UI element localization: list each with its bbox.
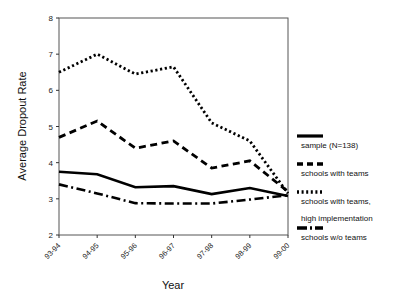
y-tick-label: 7 [49,50,54,59]
legend-label: schools with teams, [301,197,371,206]
legend-label: high implementation [301,214,373,223]
y-tick-label: 3 [49,195,54,204]
legend-label: schools with teams [301,169,369,178]
x-tick-label: 96-97 [157,241,177,261]
x-tick-label: 99-00 [271,241,291,261]
series-line [59,121,288,192]
x-tick-label: 95-96 [119,241,139,261]
chart-legend: sample (N=138)schools with teamsschools … [297,136,373,242]
legend-label: schools w/o teams [301,233,367,242]
y-tick-label: 2 [49,231,54,240]
x-tick-label: 94-95 [81,241,101,261]
y-tick-label: 8 [49,14,54,23]
legend-label: sample (N=138) [301,141,358,150]
x-tick-label: 93-94 [42,241,62,261]
y-tick-label: 5 [49,123,54,132]
series-line [59,172,288,196]
data-series-group [59,54,288,203]
x-axis-tick-labels: 93-9494-9595-9696-9797-9898-9999-00 [42,241,291,261]
x-axis-title: Year [162,279,185,291]
chart-canvas: 2345678 93-9494-9595-9696-9797-9898-9999… [0,0,408,301]
y-tick-label: 4 [49,159,54,168]
y-axis-title: Average Dropout Rate [16,71,28,180]
y-axis-tick-labels: 2345678 [49,14,54,240]
x-tick-label: 98-99 [233,241,253,261]
dropout-rate-line-chart: 2345678 93-9494-9595-9696-9797-9898-9999… [0,0,408,301]
y-tick-label: 6 [49,86,54,95]
x-tick-label: 97-98 [195,241,215,261]
